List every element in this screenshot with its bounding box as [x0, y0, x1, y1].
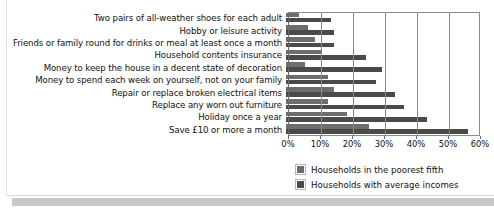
category-label: Two pairs of all-weather shoes for each …: [0, 13, 286, 23]
bar-poor: [286, 124, 369, 129]
category-label: Hobby or leisure activity: [0, 26, 286, 36]
bar-poor: [286, 87, 334, 92]
bar-poor: [286, 75, 328, 80]
chart-screenshot: Two pairs of all-weather shoes for each …: [0, 0, 494, 220]
bar-poor: [286, 62, 305, 67]
category-label: Save £10 or more a month: [0, 125, 286, 135]
chart-row: Money to keep the house in a decent stat…: [0, 62, 494, 74]
grouped-bar-chart: Two pairs of all-weather shoes for each …: [0, 0, 494, 220]
legend-swatch-icon: [296, 180, 305, 189]
bar-group: [286, 24, 478, 36]
chart-row: Save £10 or more a month: [0, 124, 494, 136]
x-axis-tick-label: 10%: [311, 139, 330, 149]
page-bottom-strip: [12, 198, 494, 206]
page-bottom-corner: [0, 206, 60, 220]
bar-group: [286, 86, 478, 98]
bar-group: [286, 99, 478, 111]
chart-row: Money to spend each week on yourself, no…: [0, 74, 494, 86]
chart-legend: Households in the poorest fifth Househol…: [296, 162, 459, 192]
x-axis-tick-label: 60%: [471, 139, 490, 149]
bar-poor: [286, 112, 347, 117]
bar-group: [286, 124, 478, 136]
category-label: Friends or family round for drinks or me…: [0, 38, 286, 48]
legend-item-average-incomes[interactable]: Households with average incomes: [296, 177, 459, 192]
bar-group: [286, 74, 478, 86]
bar-avg: [286, 18, 331, 23]
x-axis-tick-label: 30%: [375, 139, 394, 149]
bar-group: [286, 37, 478, 49]
x-axis-tick-label: 20%: [343, 139, 362, 149]
category-label: Money to keep the house in a decent stat…: [0, 63, 286, 73]
bar-avg: [286, 80, 376, 85]
bar-avg: [286, 105, 404, 110]
category-label: Repair or replace broken electrical item…: [0, 88, 286, 98]
chart-row: Friends or family round for drinks or me…: [0, 37, 494, 49]
category-label: Replace any worn out furniture: [0, 100, 286, 110]
bar-avg: [286, 129, 468, 134]
category-label: Money to spend each week on yourself, no…: [0, 75, 286, 85]
chart-row: Repair or replace broken electrical item…: [0, 86, 494, 98]
chart-row: Holiday once a year: [0, 111, 494, 123]
x-axis-tick-label: 40%: [407, 139, 426, 149]
chart-row: Replace any worn out furniture: [0, 99, 494, 111]
bar-group: [286, 49, 478, 61]
x-axis-tick-label: 0%: [281, 139, 294, 149]
legend-item-label: Households in the poorest fifth: [311, 165, 443, 175]
legend-item-poorest-fifth[interactable]: Households in the poorest fifth: [296, 162, 459, 177]
bar-avg: [286, 92, 395, 97]
x-axis-tick-label: 50%: [439, 139, 458, 149]
bar-group: [286, 62, 478, 74]
bar-poor: [286, 13, 299, 18]
bar-avg: [286, 55, 366, 60]
chart-rows: Two pairs of all-weather shoes for each …: [0, 12, 494, 136]
category-label: Household contents insurance: [0, 50, 286, 60]
bar-poor: [286, 37, 315, 42]
bar-avg: [286, 117, 427, 122]
chart-row: Two pairs of all-weather shoes for each …: [0, 12, 494, 24]
bar-avg: [286, 43, 334, 48]
chart-row: Hobby or leisure activity: [0, 24, 494, 36]
legend-item-label: Households with average incomes: [311, 180, 459, 190]
bar-avg: [286, 30, 334, 35]
bar-poor: [286, 50, 321, 55]
category-label: Holiday once a year: [0, 112, 286, 122]
chart-row: Household contents insurance: [0, 49, 494, 61]
bar-group: [286, 12, 478, 24]
bar-poor: [286, 25, 308, 30]
bar-group: [286, 111, 478, 123]
bar-avg: [286, 67, 382, 72]
legend-swatch-icon: [296, 165, 305, 174]
bar-poor: [286, 99, 328, 104]
